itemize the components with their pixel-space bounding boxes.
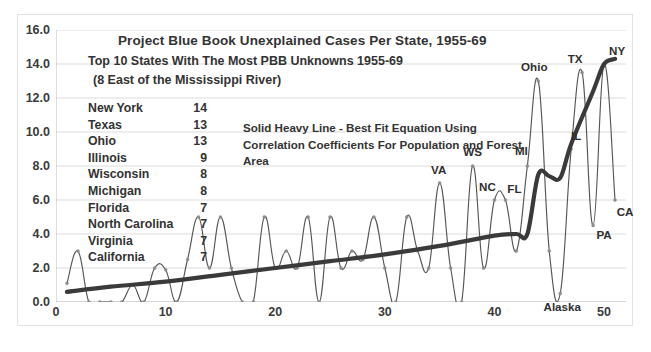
data-point: [504, 199, 507, 202]
top-states-state-name: Florida: [88, 201, 129, 215]
annotation-line: Correlation Coefficients For Population …: [243, 137, 543, 154]
top-states-row: Illinois9: [88, 151, 238, 168]
top-states-row: Wisconsin8: [88, 167, 238, 184]
annotation-line: Solid Heavy Line - Best Fit Equation Usi…: [243, 120, 543, 137]
point-label-ca: CA: [617, 205, 634, 218]
x-axis-tick-50: 50: [584, 306, 624, 319]
data-point: [383, 267, 386, 270]
point-label-nc: NC: [479, 180, 496, 193]
data-point: [394, 301, 397, 303]
point-label-alaska: Alaska: [544, 300, 581, 313]
top-states-row: Michigan8: [88, 184, 238, 201]
top-states-row: New York14: [88, 101, 238, 118]
data-point: [581, 71, 584, 74]
top-states-state-name: Wisconsin: [88, 167, 149, 181]
chart-subtitle-2: (8 East of the Mississippi River): [93, 73, 281, 87]
data-point: [76, 250, 79, 253]
data-point: [142, 301, 145, 303]
data-point: [241, 301, 244, 303]
data-point: [263, 216, 266, 219]
top-states-state-name: Michigan: [88, 184, 141, 198]
data-point: [460, 301, 463, 303]
data-point: [405, 216, 408, 219]
y-axis-tick-10.0: 10.0: [10, 126, 50, 139]
data-point: [87, 301, 90, 303]
top-states-row: Texas13: [88, 118, 238, 135]
data-point: [109, 301, 112, 303]
data-point: [493, 199, 496, 202]
y-axis-tick-12.0: 12.0: [10, 92, 50, 105]
point-label-il: IL: [571, 129, 581, 142]
data-point: [285, 250, 288, 253]
data-point: [252, 301, 255, 303]
top-states-state-value: 7: [191, 217, 207, 231]
chart-title: Project Blue Book Unexplained Cases Per …: [118, 33, 487, 48]
chart-subtitle-1: Top 10 States With The Most PBB Unknowns…: [88, 54, 403, 68]
top-states-state-value: 8: [191, 167, 207, 181]
data-point: [65, 282, 68, 285]
annotation-line: Area: [243, 153, 543, 170]
top-states-state-name: North Carolina: [88, 217, 173, 231]
top-states-state-value: 13: [191, 118, 207, 132]
x-axis-tick-40: 40: [474, 306, 514, 319]
data-point: [340, 267, 343, 270]
data-point: [164, 268, 167, 271]
point-label-va: VA: [431, 163, 446, 176]
top-states-state-value: 8: [191, 184, 207, 198]
y-axis-tick-16.0: 16.0: [10, 24, 50, 37]
top-states-state-value: 7: [191, 250, 207, 264]
y-axis-tick-6.0: 6.0: [10, 194, 50, 207]
top-states-state-value: 7: [191, 234, 207, 248]
x-axis-tick-30: 30: [365, 306, 405, 319]
top-states-state-name: Ohio: [88, 134, 116, 148]
data-point: [175, 301, 178, 303]
top-states-state-value: 9: [191, 151, 207, 165]
top-states-state-value: 13: [191, 134, 207, 148]
y-axis-tick-8.0: 8.0: [10, 160, 50, 173]
data-point: [614, 199, 617, 202]
data-point: [515, 250, 518, 253]
data-point: [372, 216, 375, 219]
data-point: [307, 216, 310, 219]
data-point: [208, 267, 211, 270]
top-states-state-name: Illinois: [88, 151, 127, 165]
top-states-list: New York14Texas13Ohio13Illinois9Wisconsi…: [88, 101, 238, 267]
top-states-row: North Carolina7: [88, 217, 238, 234]
data-point: [482, 267, 485, 270]
top-states-row: Florida7: [88, 201, 238, 218]
top-states-state-name: California: [88, 250, 145, 264]
data-point: [449, 267, 452, 270]
top-states-state-name: Virginia: [88, 234, 133, 248]
point-label-mi: MI: [515, 144, 528, 157]
top-states-state-name: New York: [88, 101, 143, 115]
x-axis-tick-0: 0: [36, 306, 76, 319]
point-label-fl: FL: [507, 182, 521, 195]
data-point: [438, 182, 441, 185]
data-point: [548, 250, 551, 253]
point-label-ws: WS: [463, 145, 482, 158]
data-point: [329, 216, 332, 219]
data-point: [120, 301, 123, 303]
data-point: [592, 224, 595, 227]
top-states-row: Ohio13: [88, 134, 238, 151]
data-point: [318, 301, 321, 303]
top-states-state-value: 14: [191, 101, 207, 115]
top-states-row: Virginia7: [88, 234, 238, 251]
point-label-tx: TX: [568, 52, 583, 65]
data-point: [537, 80, 540, 83]
top-states-row: California7: [88, 250, 238, 267]
chart-container: 0.02.04.06.08.010.012.014.016.0 01020304…: [0, 0, 651, 352]
data-point: [559, 292, 562, 295]
data-point: [427, 267, 430, 270]
x-axis-tick-20: 20: [255, 306, 295, 319]
point-label-ohio: Ohio: [521, 60, 547, 73]
data-point: [350, 250, 353, 253]
y-axis-tick-4.0: 4.0: [10, 228, 50, 241]
point-label-ny: NY: [609, 44, 625, 57]
x-axis-tick-labels: 01020304050: [56, 306, 626, 328]
data-point: [153, 267, 156, 270]
y-axis-tick-labels: 0.02.04.06.08.010.012.014.016.0: [6, 30, 50, 302]
y-axis-tick-2.0: 2.0: [10, 262, 50, 275]
point-label-pa: PA: [596, 228, 611, 241]
data-point: [98, 301, 101, 303]
